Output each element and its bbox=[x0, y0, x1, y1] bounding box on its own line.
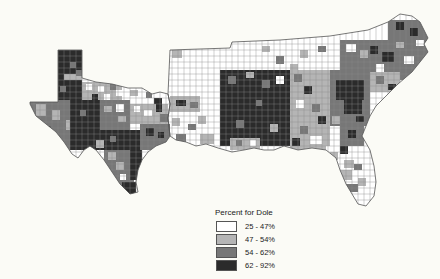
legend-swatch bbox=[216, 260, 237, 271]
legend-label: 54 - 62% bbox=[245, 248, 275, 257]
legend-item: 62 - 92% bbox=[213, 259, 333, 272]
legend-item: 25 - 47% bbox=[213, 220, 333, 233]
legend-label: 62 - 92% bbox=[245, 261, 275, 270]
legend-label: 25 - 47% bbox=[245, 222, 275, 231]
legend-swatch bbox=[216, 221, 237, 232]
map-legend: Percent for Dole 25 - 47% 47 - 54% 54 - … bbox=[213, 205, 333, 272]
legend-item: 47 - 54% bbox=[213, 233, 333, 246]
legend-title: Percent for Dole bbox=[215, 208, 333, 217]
legend-swatch bbox=[216, 247, 237, 258]
legend-label: 47 - 54% bbox=[245, 235, 275, 244]
legend-swatch bbox=[216, 234, 237, 245]
legend-item: 54 - 62% bbox=[213, 246, 333, 259]
